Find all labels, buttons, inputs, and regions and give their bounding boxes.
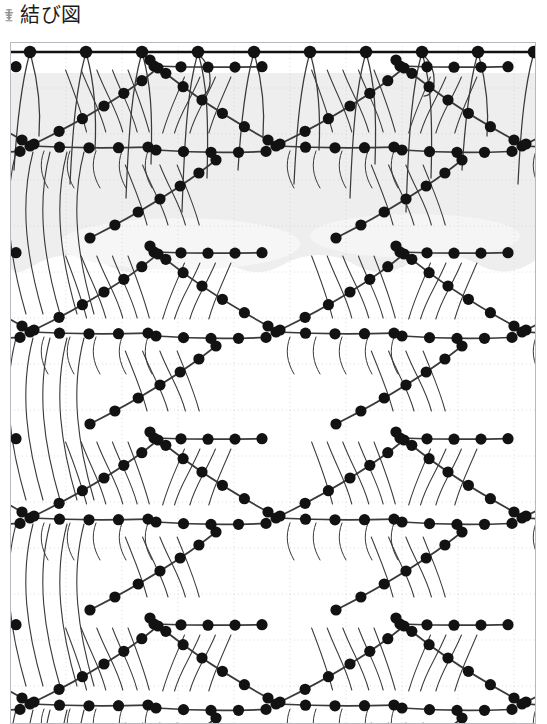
page-title: 結び図 <box>20 4 82 26</box>
knot-glyph-icon <box>1 7 17 23</box>
knot-diagram-page: 結び図 <box>0 0 547 724</box>
knot-pattern-canvas <box>0 30 547 724</box>
page-header: 結び図 <box>0 0 547 30</box>
knot-pattern-diagram <box>0 30 547 724</box>
